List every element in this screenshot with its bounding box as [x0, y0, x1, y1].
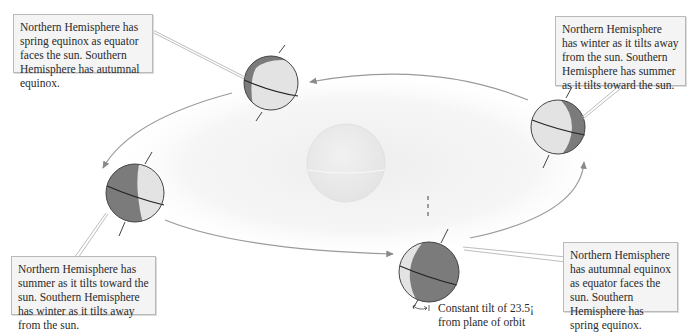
- tilt-label-line1: Constant tilt of 23.5¡: [438, 301, 534, 315]
- callout-spring-equinox: Northern Hemisphere has spring equinox a…: [13, 14, 153, 73]
- tilt-angle-indicator: [413, 306, 427, 309]
- callout-northern-winter: Northern Hemisphere has winter as it til…: [555, 16, 686, 86]
- sun: [307, 124, 385, 202]
- callout-autumnal-equinox: Northern Hemisphere has autumnal equinox…: [563, 242, 678, 312]
- callout-text: Northern Hemisphere has winter as it til…: [562, 23, 679, 91]
- tilt-label: Constant tilt of 23.5¡ from plane of orb…: [438, 301, 534, 329]
- callout-northern-summer: Northern Hemisphere has summer as it til…: [11, 256, 156, 315]
- tilt-label-line2: from plane of orbit: [438, 315, 534, 329]
